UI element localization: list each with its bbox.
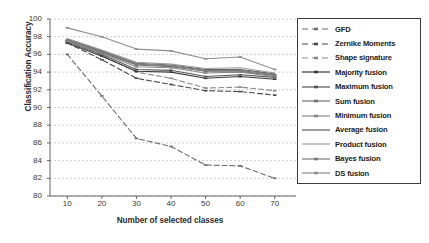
legend-label: Bayes fusion (335, 154, 380, 163)
legend-label: Shape signature (335, 53, 392, 62)
legend-swatch (301, 23, 331, 35)
legend-swatch (301, 38, 331, 50)
legend-item-shape-signature[interactable]: Shape signature (301, 51, 418, 65)
legend-label: Product fusion (335, 140, 386, 149)
legend-label: Majority fusion (335, 68, 387, 77)
legend-item-minimum-fusion[interactable]: Minimum fusion (301, 108, 418, 122)
legend-item-sum-fusion[interactable]: Sum fusion (301, 94, 418, 108)
legend-swatch (301, 110, 331, 122)
data-series-layer (65, 28, 276, 178)
legend-swatch (301, 167, 331, 179)
legend-swatch (301, 138, 331, 150)
legend-swatch (301, 81, 331, 93)
legend-label: Average fusion (335, 125, 387, 134)
legend-swatch (301, 66, 331, 78)
legend-label: GFD (335, 25, 351, 34)
legend-swatch (301, 153, 331, 165)
legend-item-ds-fusion[interactable]: DS fusion (301, 166, 418, 180)
legend-item-zernike-moments[interactable]: Zernike Moments (301, 36, 418, 50)
legend-swatch (301, 95, 331, 107)
legend-item-bayes-fusion[interactable]: Bayes fusion (301, 152, 418, 166)
legend-swatch (301, 52, 331, 64)
legend-swatch (301, 124, 331, 136)
legend-item-maximum-fusion[interactable]: Maximum fusion (301, 80, 418, 94)
legend-item-gfd[interactable]: GFD (301, 22, 418, 36)
legend-label: Maximum fusion (335, 82, 393, 91)
legend: GFDZernike MomentsShape signatureMajorit… (297, 18, 421, 184)
legend-item-average-fusion[interactable]: Average fusion (301, 123, 418, 137)
legend-label: Sum fusion (335, 97, 375, 106)
legend-item-majority-fusion[interactable]: Majority fusion (301, 65, 418, 79)
legend-label: DS fusion (335, 169, 369, 178)
legend-item-product-fusion[interactable]: Product fusion (301, 137, 418, 151)
legend-label: Zernike Moments (335, 39, 395, 48)
chart-figure: Classification Accuracy Number of select… (0, 0, 429, 243)
legend-label: Minimum fusion (335, 111, 391, 120)
